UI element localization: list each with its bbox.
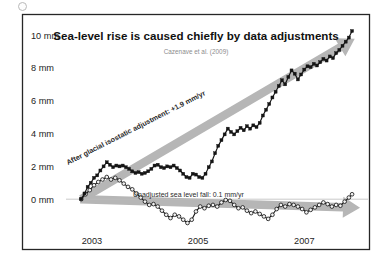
data-point-marker: [296, 205, 300, 209]
data-point-marker: [312, 62, 315, 65]
data-point-marker: [293, 72, 296, 75]
data-point-marker: [147, 170, 150, 173]
data-point-marker: [287, 75, 290, 78]
data-point-marker: [306, 65, 309, 68]
data-point-marker: [335, 52, 338, 55]
y-tick-label: 4 mm: [31, 129, 54, 139]
data-point-marker: [140, 172, 143, 175]
data-point-marker: [143, 171, 146, 174]
data-point-marker: [166, 165, 169, 168]
data-point-marker: [338, 48, 341, 51]
data-point-marker: [126, 185, 130, 189]
data-point-marker: [328, 55, 331, 58]
data-point-marker: [99, 169, 102, 172]
data-point-marker: [182, 172, 185, 175]
data-point-marker: [88, 188, 92, 192]
data-point-marker: [152, 202, 156, 206]
data-point-marker: [262, 215, 266, 219]
data-point-marker: [300, 207, 304, 211]
data-point-marker: [186, 221, 190, 225]
data-point-marker: [134, 171, 137, 174]
data-point-marker: [339, 204, 343, 208]
data-point-marker: [105, 175, 109, 179]
data-point-marker: [102, 165, 105, 168]
data-point-marker: [220, 201, 224, 205]
data-point-marker: [245, 125, 248, 128]
data-point-marker: [172, 164, 175, 167]
data-point-marker: [181, 218, 185, 222]
data-point-marker: [211, 203, 215, 207]
data-point-marker: [173, 213, 177, 217]
y-tick-label: 6 mm: [31, 96, 54, 106]
data-point-marker: [322, 57, 325, 60]
data-point-marker: [198, 205, 202, 209]
data-point-marker: [330, 205, 334, 209]
data-point-marker: [89, 181, 92, 184]
data-point-marker: [288, 202, 292, 206]
data-point-marker: [343, 200, 347, 204]
data-point-marker: [160, 209, 164, 213]
data-point-marker: [316, 64, 319, 67]
data-point-marker: [261, 114, 264, 117]
data-point-marker: [334, 203, 338, 207]
y-tick-label: 0 mm: [31, 195, 54, 205]
data-point-marker: [245, 209, 249, 213]
data-point-marker: [325, 59, 328, 62]
data-point-marker: [347, 36, 350, 39]
data-point-marker: [331, 57, 334, 60]
chart-title: Sea-level rise is caused chiefly by data…: [53, 29, 338, 42]
data-point-marker: [290, 69, 293, 72]
data-point-marker: [271, 96, 274, 99]
data-point-marker: [232, 203, 236, 207]
data-point-marker: [241, 206, 245, 210]
data-point-marker: [185, 176, 188, 179]
data-point-marker: [137, 171, 140, 174]
data-point-marker: [147, 203, 151, 207]
data-point-marker: [350, 192, 354, 196]
data-point-marker: [220, 139, 223, 142]
data-point-marker: [283, 205, 287, 209]
data-point-marker: [292, 203, 296, 207]
sea-level-chart: 10 mm8 mm6 mm4 mm2 mm0 mm 200320052007 S…: [0, 0, 392, 267]
x-tick-label: 2007: [294, 236, 314, 246]
data-point-marker: [284, 83, 287, 86]
data-point-marker: [203, 206, 207, 210]
data-point-marker: [210, 160, 213, 163]
data-point-marker: [274, 90, 277, 93]
data-point-marker: [96, 180, 100, 184]
data-point-marker: [237, 206, 241, 210]
data-point-marker: [169, 216, 173, 220]
data-point-marker: [179, 169, 182, 172]
data-point-marker: [96, 174, 99, 177]
data-point-marker: [275, 207, 279, 211]
data-point-marker: [204, 172, 207, 175]
data-point-marker: [305, 210, 309, 214]
data-point-marker: [239, 126, 242, 129]
data-point-marker: [277, 84, 280, 87]
data-point-marker: [341, 44, 344, 47]
data-point-marker: [271, 213, 275, 217]
data-point-marker: [224, 198, 228, 202]
data-point-marker: [249, 127, 252, 130]
data-point-marker: [131, 170, 134, 173]
data-point-marker: [309, 66, 312, 69]
data-point-marker: [326, 202, 330, 206]
data-point-marker: [351, 30, 354, 33]
data-point-marker: [80, 198, 83, 201]
chart-subtitle: Cazenave et al. (2009): [164, 48, 229, 56]
data-point-marker: [121, 164, 124, 167]
data-point-marker: [201, 176, 204, 179]
data-point-marker: [215, 205, 219, 209]
data-point-marker: [92, 183, 96, 187]
data-point-marker: [280, 79, 283, 82]
data-point-marker: [255, 126, 258, 129]
data-point-marker: [177, 215, 181, 219]
data-point-marker: [265, 108, 268, 111]
data-point-marker: [163, 167, 166, 170]
data-point-marker: [124, 166, 127, 169]
data-point-marker: [156, 163, 159, 166]
data-point-marker: [164, 213, 168, 217]
x-tick-label: 2003: [82, 236, 102, 246]
data-point-marker: [344, 40, 347, 43]
data-point-marker: [242, 129, 245, 132]
